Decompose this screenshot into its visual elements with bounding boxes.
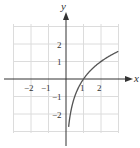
y-tick-2: 2 [57, 40, 62, 50]
log-curve [69, 51, 119, 127]
y-axis-label: y [60, 0, 66, 12]
x-tick-minus1: −1 [41, 83, 51, 93]
x-tick-minus2: −2 [24, 83, 34, 93]
x-axis-arrow-icon [125, 76, 133, 82]
log-graph: x y −2 −1 1 2 2 1 −1 −2 [0, 0, 140, 148]
y-tick-1: 1 [57, 57, 62, 67]
y-tick-minus1: −1 [52, 92, 62, 102]
y-tick-minus2: −2 [52, 110, 62, 120]
y-axis-arrow-icon [63, 12, 69, 20]
x-tick-2: 2 [97, 83, 102, 93]
x-axis-label: x [133, 72, 139, 84]
